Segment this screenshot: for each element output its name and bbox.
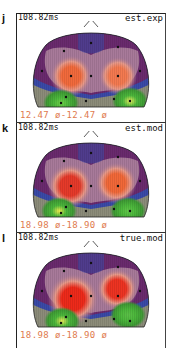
topomap-head-icon (26, 131, 156, 219)
panel-letter: j (2, 12, 5, 24)
panel-k: k 108.82ms est.mod 18.98 ø-18.90 ø (16, 123, 166, 233)
panel-scale: 18.98 ø-18.90 ø (20, 220, 107, 230)
panel-scale: 18.98 ø-18.90 ø (20, 330, 107, 340)
topomap-head-icon (26, 241, 156, 329)
panel-j: j 108.82ms est.exp 12.47 ø-12.47 ø (16, 13, 166, 123)
panel-letter: l (2, 232, 5, 244)
panel-letter: k (2, 122, 8, 134)
panel-l: l 108.82ms true.mod 18.98 ø-18.90 ø (16, 233, 166, 348)
topomap-head-icon (26, 21, 156, 109)
panel-scale: 12.47 ø-12.47 ø (20, 110, 107, 120)
